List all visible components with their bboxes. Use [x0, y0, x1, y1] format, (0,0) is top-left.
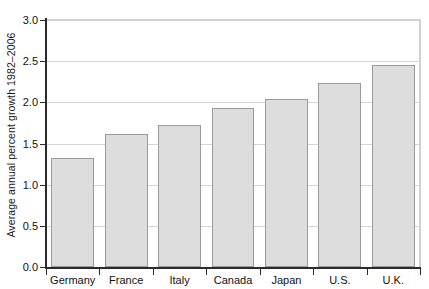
- y-axis-tick-label: 3.0: [0, 14, 38, 26]
- x-axis-category-label: U.K.: [383, 274, 404, 286]
- y-axis-tick-label: 2.5: [0, 55, 38, 67]
- y-axis-tick-label: 0.0: [0, 261, 38, 273]
- bar-germany: [51, 158, 94, 267]
- y-axis-tick-label: 1.5: [0, 138, 38, 150]
- bar-series: [46, 20, 420, 267]
- x-axis-category-label: Germany: [50, 274, 95, 286]
- x-axis-tick: [206, 269, 207, 275]
- bar-u-s: [318, 83, 361, 267]
- bar-u-k: [372, 65, 415, 267]
- y-axis-tick: [40, 267, 46, 268]
- x-axis-tick: [46, 269, 47, 275]
- bar-canada: [212, 108, 255, 267]
- x-axis-tick: [153, 269, 154, 275]
- x-axis-category-label: Canada: [214, 274, 253, 286]
- y-axis-tick: [40, 226, 46, 227]
- x-axis-category-label: Japan: [271, 274, 301, 286]
- x-axis-category-label: Italy: [169, 274, 189, 286]
- y-axis-tick-label: 0.5: [0, 220, 38, 232]
- y-axis-tick: [40, 102, 46, 103]
- x-axis-tick: [313, 269, 314, 275]
- bar-chart-figure: Average annual percent growth 1982–2006 …: [0, 0, 429, 289]
- y-axis-tick: [40, 144, 46, 145]
- bar-france: [105, 134, 148, 267]
- x-axis-line: [45, 267, 421, 269]
- y-axis-tick: [40, 20, 46, 21]
- x-axis-tick: [260, 269, 261, 275]
- y-axis-tick-label: 2.0: [0, 96, 38, 108]
- x-axis-tick: [99, 269, 100, 275]
- x-axis-category-label: U.S.: [329, 274, 350, 286]
- bar-japan: [265, 99, 308, 267]
- y-axis-tick: [40, 61, 46, 62]
- x-axis-tick: [420, 269, 421, 275]
- x-axis-tick: [367, 269, 368, 275]
- y-axis-tick: [40, 185, 46, 186]
- x-axis-category-label: France: [109, 274, 143, 286]
- plot-area: [46, 20, 420, 267]
- y-axis-tick-label: 1.0: [0, 179, 38, 191]
- bar-italy: [158, 125, 201, 267]
